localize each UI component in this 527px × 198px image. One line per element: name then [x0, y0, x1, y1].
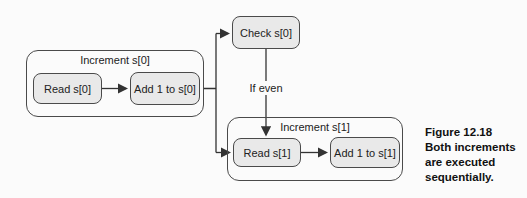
- edge-trunk-branch: [204, 34, 216, 153]
- node-add-1-to-s1: Add 1 to s[1]: [330, 137, 400, 168]
- figure-caption-line: sequentially.: [425, 170, 516, 185]
- node-read-s1: Read s[1]: [233, 138, 301, 167]
- group-increment-s1-label: Increment s[1]: [228, 121, 402, 133]
- figure-12-18-diagram: Increment s[0] Read s[0] Add 1 to s[0] C…: [0, 0, 527, 198]
- node-read-s0: Read s[0]: [33, 73, 102, 104]
- node-check-s0: Check s[0]: [232, 16, 300, 49]
- node-add-1-to-s0: Add 1 to s[0]: [130, 72, 200, 105]
- figure-caption-line: are executed: [425, 155, 516, 170]
- figure-caption: Figure 12.18 Both increments are execute…: [425, 125, 516, 185]
- figure-caption-line: Both increments: [425, 140, 516, 155]
- edge-label-if-even: If even: [244, 81, 288, 95]
- figure-caption-line: Figure 12.18: [425, 125, 516, 140]
- group-increment-s0-label: Increment s[0]: [27, 54, 203, 66]
